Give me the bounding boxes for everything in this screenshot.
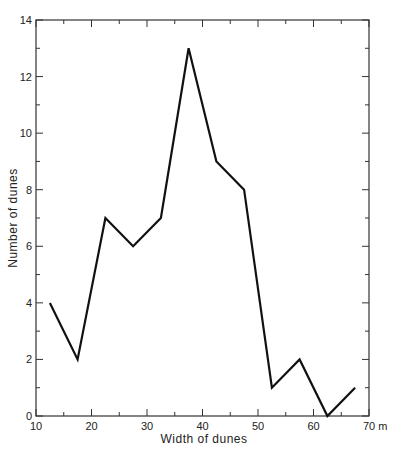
y-tick-label: 12 (20, 71, 32, 83)
x-axis-title: Width of dunes (160, 432, 247, 446)
y-tick-label: 2 (26, 353, 32, 365)
y-tick-label: 4 (26, 297, 32, 309)
y-axis-title: Number of dunes (6, 168, 20, 268)
x-tick-label: 40 (196, 420, 208, 432)
series-line (50, 48, 355, 416)
y-tick-label: 8 (26, 184, 32, 196)
x-tick-label: 50 (252, 420, 264, 432)
x-tick-label: 30 (141, 420, 153, 432)
x-tick-label: 60 (307, 420, 319, 432)
y-tick-label: 0 (26, 410, 32, 422)
y-tick-label: 14 (20, 14, 32, 26)
y-tick-label: 6 (26, 240, 32, 252)
x-tick-label: 70 m (363, 420, 387, 432)
y-tick-label: 10 (20, 127, 32, 139)
x-tick-label: 20 (85, 420, 97, 432)
line-chart: 10203040506070 m02468101214 Width of dun… (0, 0, 403, 454)
plot-frame (36, 20, 369, 416)
